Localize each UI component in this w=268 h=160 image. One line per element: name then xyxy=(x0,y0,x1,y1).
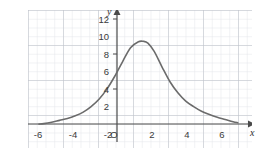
origin-label: O xyxy=(106,130,122,140)
graph-svg xyxy=(28,10,252,148)
major-gridlines xyxy=(28,10,252,148)
x-tick-label-6: 6 xyxy=(214,130,230,140)
x-axis-name: x xyxy=(250,127,254,138)
x-tick-label-4: 4 xyxy=(179,130,195,140)
y-axis-name: y xyxy=(107,6,111,17)
figure-canvas: 12 10 8 6 4 2 -6 -4 -2 O 2 4 6 y x xyxy=(0,0,268,160)
y-tick-label-8: 8 xyxy=(99,50,109,60)
x-tick-label-2: 2 xyxy=(144,130,160,140)
y-tick-label-2: 2 xyxy=(99,102,109,112)
plot-area xyxy=(28,10,252,148)
y-tick-label-4: 4 xyxy=(99,85,109,95)
y-tick-label-10: 10 xyxy=(93,32,109,42)
x-tick-label-neg4: -4 xyxy=(65,130,81,140)
y-tick-label-6: 6 xyxy=(99,67,109,77)
x-tick-label-neg6: -6 xyxy=(30,130,46,140)
